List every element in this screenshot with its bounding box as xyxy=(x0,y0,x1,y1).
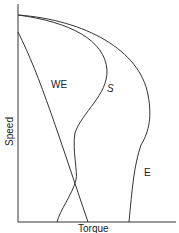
chart-plot xyxy=(0,0,179,233)
curve-s xyxy=(18,15,107,222)
curve-e xyxy=(18,15,150,222)
y-axis-label: Speed xyxy=(4,117,15,147)
label-e: E xyxy=(144,168,151,178)
speed-torque-chart: WE S E Speed Torque xyxy=(0,0,179,233)
x-axis-label: Torque xyxy=(78,224,109,233)
label-we: WE xyxy=(51,80,67,90)
label-s: S xyxy=(107,84,114,94)
